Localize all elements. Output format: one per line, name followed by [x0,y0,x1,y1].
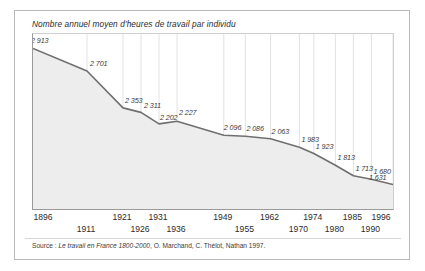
data-point-label: 2 913 [32,36,49,45]
data-point-label: 1 713 [355,164,373,173]
data-point-label: 2 353 [125,96,143,105]
data-point-label: 1 631 [369,173,387,182]
chart-title: Nombre annuel moyen d'heures de travail … [32,19,236,29]
source-work-title: Le travail en France 1800-2000 [58,242,150,249]
data-point-label: 2 202 [160,113,178,122]
data-point-label: 2 096 [224,123,242,132]
data-point-label: 1 923 [316,142,334,151]
source-note: Source : Le travail en France 1800-2000,… [32,242,265,249]
data-point-label: 2 701 [90,59,108,68]
area-fill [33,49,393,210]
data-point-label: 2 086 [246,124,264,133]
x-axis-tick-label: 1970 [289,224,308,234]
x-axis-tick-label: 1980 [325,224,344,234]
x-axis-tick-label: 1926 [130,224,149,234]
x-axis-tick-label: 1921 [112,212,131,222]
source-divider [25,238,401,239]
chart-canvas [33,34,393,209]
data-point-label: 2 311 [144,101,161,110]
x-axis-tick-label: 1974 [303,212,322,222]
x-axis-tick-label: 1955 [235,224,254,234]
source-prefix: Source : [32,242,58,249]
data-point-label: 1 813 [337,153,355,162]
data-point-label: 2 227 [179,108,197,117]
x-axis-tick-label: 1985 [343,212,362,222]
source-suffix: , O. Marchand, C. Thélot, Nathan 1997. [150,242,265,249]
x-axis-tick-label: 1936 [166,224,185,234]
x-axis-tick-label: 1962 [260,212,279,222]
x-axis-tick-label: 1896 [33,212,52,222]
data-point-label: 2 063 [272,127,290,136]
plot-area: 2 9132 7012 3532 3112 2022 2272 0962 086… [32,33,394,210]
x-axis-tick-label: 1949 [213,212,232,222]
x-axis-tick-label: 1931 [148,212,167,222]
x-axis-tick-label: 1990 [361,224,380,234]
x-axis-tick-label: 1996 [371,212,390,222]
x-axis-labels: 1896191119211926193119361949195519621970… [32,211,394,239]
chart-frame: Nombre annuel moyen d'heures de travail … [14,10,410,260]
x-axis-tick-label: 1911 [77,224,95,234]
